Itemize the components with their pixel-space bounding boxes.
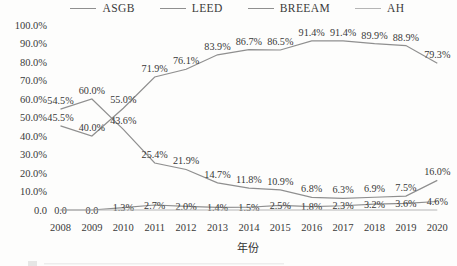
data-label-leed: 54.5% xyxy=(47,95,74,106)
data-label-breeam: 3.2% xyxy=(364,199,386,210)
data-label-breeam: 2.7% xyxy=(144,200,166,211)
x-axis-tick-label: 2010 xyxy=(113,222,134,233)
y-axis-tick-label: 80.0% xyxy=(20,57,47,68)
data-label-leed: 10.9% xyxy=(267,176,294,187)
cropped-caption-fragment xyxy=(28,261,284,266)
y-axis-tick-label: 40.0% xyxy=(20,131,47,142)
y-axis-tick-label: 100.0% xyxy=(15,20,48,31)
y-axis-tick-label: 90.0% xyxy=(20,38,47,49)
y-axis-tick-label: 60.0% xyxy=(20,94,47,105)
data-label-leed: 11.8% xyxy=(236,174,262,185)
x-axis-tick-label: 2012 xyxy=(176,222,197,233)
data-label-leed: 6.9% xyxy=(364,183,386,194)
y-axis-tick-label: 20.0% xyxy=(20,168,47,179)
data-label-asgb: 86.7% xyxy=(236,36,263,47)
data-label-asgb: 79.3% xyxy=(424,49,451,60)
x-axis-tick-label: 2015 xyxy=(270,222,291,233)
y-axis-tick-label: 70.0% xyxy=(20,75,47,86)
data-label-leed: 7.5% xyxy=(395,182,417,193)
data-label-breeam: 2.5% xyxy=(270,200,292,211)
data-label-breeam: 1.5% xyxy=(238,202,260,213)
x-axis-tick-label: 2008 xyxy=(50,222,71,233)
y-axis-tick-label: 10.0% xyxy=(20,186,47,197)
data-label-leed: 43.6% xyxy=(110,115,137,126)
y-axis-tick-label: 30.0% xyxy=(20,149,47,160)
data-label-asgb: 83.9% xyxy=(204,41,231,52)
data-label-asgb: 71.9% xyxy=(142,63,169,74)
y-axis-tick-label: 0.0 xyxy=(34,205,47,216)
data-label-asgb: 76.1% xyxy=(173,55,200,66)
data-label-breeam: 1.3% xyxy=(113,202,135,213)
data-label-leed: 21.9% xyxy=(173,155,200,166)
data-label-leed: 14.7% xyxy=(204,169,231,180)
x-axis-tick-label: 2017 xyxy=(333,222,354,233)
data-label-breeam: 1.4% xyxy=(207,202,229,213)
data-label-leed: 6.3% xyxy=(332,184,354,195)
y-axis-tick-label: 50.0% xyxy=(20,112,47,123)
data-label-asgb: 91.4% xyxy=(330,27,357,38)
line-chart-figure: ASGB LEED BREEAM AH 年份 100.0%90.0%80.0%7… xyxy=(0,0,457,266)
data-label-breeam: 3.6% xyxy=(395,198,417,209)
x-axis-tick-label: 2016 xyxy=(301,222,322,233)
data-label-asgb: 91.4% xyxy=(299,27,326,38)
data-label-breeam: 4.6% xyxy=(427,196,449,207)
data-label-leed: 16.0% xyxy=(424,166,451,177)
x-axis-tick-label: 2011 xyxy=(144,222,165,233)
data-label-leed: 6.8% xyxy=(301,183,323,194)
x-axis-tick-label: 2014 xyxy=(238,222,260,233)
x-axis-tick-label: 2013 xyxy=(207,222,228,233)
data-label-asgb: 88.9% xyxy=(393,32,420,43)
x-axis-tick-label: 2009 xyxy=(81,222,102,233)
data-label-asgb: 86.5% xyxy=(267,36,294,47)
data-label-asgb: 45.5% xyxy=(47,112,74,123)
x-axis-title: 年份 xyxy=(237,241,259,254)
data-label-asgb: 55.0% xyxy=(110,94,137,105)
x-axis-tick-label: 2019 xyxy=(395,222,416,233)
plot-area: 年份 100.0%90.0%80.0%70.0%60.0%50.0%40.0%3… xyxy=(0,0,457,266)
x-axis-tick-label: 2020 xyxy=(427,222,448,233)
data-label-leed: 25.4% xyxy=(142,149,169,160)
data-label-leed: 60.0% xyxy=(79,85,106,96)
data-label-asgb: 40.0% xyxy=(79,122,106,133)
x-axis-tick-label: 2018 xyxy=(364,222,385,233)
data-label-asgb: 89.9% xyxy=(361,30,388,41)
